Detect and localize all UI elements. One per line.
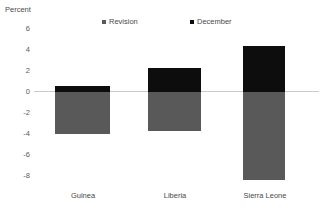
y-tick-2: 2 [0, 66, 30, 75]
x-label-sierra-leone: Sierra Leone [232, 191, 298, 200]
y-tick-label: 2 [8, 66, 30, 75]
y-tick-minus-4: -4 [0, 129, 30, 138]
y-tick-minus-6: -6 [0, 150, 30, 159]
y-tick-label: -6 [8, 150, 30, 159]
y-tick-0: 0 [0, 87, 30, 96]
y-tick-minus-8: -8 [0, 171, 30, 180]
bar-segment-december [243, 46, 285, 92]
bar-segment-december [148, 68, 201, 92]
y-tick-4: 4 [0, 45, 30, 54]
bar-segment-revision [243, 92, 285, 180]
bar-segment-revision [55, 92, 110, 134]
y-tick-label: -4 [8, 129, 30, 138]
x-label-liberia: Liberia [145, 191, 205, 200]
x-label-guinea: Guinea [52, 191, 114, 200]
bar-guinea[interactable] [55, 86, 110, 134]
bar-segment-revision [148, 92, 201, 131]
y-tick-label: 0 [8, 87, 30, 96]
bar-sierra-leone[interactable] [243, 46, 285, 180]
y-tick-minus-2: -2 [0, 108, 30, 117]
y-tick-label: -8 [8, 171, 30, 180]
y-tick-label: 6 [8, 24, 30, 33]
plot-area: 6 4 2 0 -2 -4 -6 -8 Guinea Liberia Sierr… [0, 0, 323, 211]
y-tick-6: 6 [0, 24, 30, 33]
chart-root: Percent Revision December 6 4 2 0 -2 -4 … [0, 0, 323, 211]
bar-liberia[interactable] [148, 68, 201, 131]
y-tick-label: -2 [8, 108, 30, 117]
y-tick-label: 4 [8, 45, 30, 54]
